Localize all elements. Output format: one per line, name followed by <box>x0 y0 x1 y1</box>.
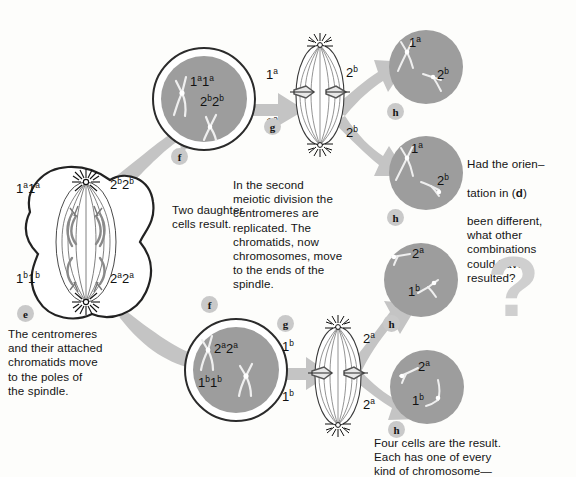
stage-badge-g-bottom: g <box>277 315 294 332</box>
cell-stage-f-top: 1a1a 2b2b <box>152 47 256 151</box>
g-bottom-label-top-right: 2a <box>363 330 375 346</box>
g-top-label-top-right: 2b <box>346 64 358 80</box>
caption-stage-e: The centromeres and their attached chrom… <box>8 327 168 398</box>
cell-stage-h-1: 1a 2b <box>389 30 463 104</box>
cell-stage-h-4: 2a 1b <box>390 350 464 424</box>
question-line-1: Had the orien– <box>467 157 544 170</box>
stage-badge-h-3: h <box>383 315 400 332</box>
g-top-label-top-left: 1a <box>266 66 278 82</box>
stage-badge-h-1: h <box>387 103 404 120</box>
stage-badge-h-2: h <box>387 209 404 226</box>
cell-stage-g-bottom: 1b 2a 1b 2a <box>298 312 378 440</box>
h2-label-top: 1a <box>411 140 423 156</box>
g-top-spindle <box>280 30 360 160</box>
cell-stage-h-3: 2a 1b <box>384 243 458 317</box>
stage-e-label-top-left: 1a1a <box>16 180 40 196</box>
cell-stage-h-2: 1a 2b <box>389 136 463 210</box>
stage-e-label-bottom-right: 2a2a <box>110 270 134 286</box>
h1-label-top: 1a <box>409 34 421 50</box>
cell-stage-f-bottom: 2a2a 1b1b <box>184 318 288 422</box>
g-top-label-bottom-right: 2b <box>346 124 358 140</box>
g-bottom-label-bottom-right: 2a <box>363 396 375 412</box>
g-bottom-label-bottom-left: 1b <box>282 388 294 404</box>
f-top-label-second: 2b2b <box>200 93 224 109</box>
caption-stage-h: Four cells are the result. Each has one … <box>374 436 576 477</box>
cell-stage-e: 1a1a 2b2b 1b1b 2a2a <box>10 158 162 328</box>
f-bottom-label-first: 2a2a <box>214 340 238 356</box>
f-bottom-label-second: 1b1b <box>198 374 222 390</box>
h1-chromosomes <box>389 30 463 104</box>
h2-chromosomes <box>389 136 463 210</box>
f-bottom-chromatids <box>184 318 288 422</box>
meiosis-diagram: 1a1a 2b2b 1b1b 2a2a e The centromeres an… <box>0 0 576 477</box>
h2-label-bottom: 2b <box>437 172 449 188</box>
stage-e-label-top-right: 2b2b <box>110 176 134 192</box>
caption-stage-g: In the second meiotic division the centr… <box>233 178 393 292</box>
question-line-2-pre: tation in ( <box>467 186 516 199</box>
f-top-label-first: 1a1a <box>190 73 214 89</box>
h4-label-bottom: 1b <box>412 392 424 408</box>
stage-badge-f-top: f <box>171 148 188 165</box>
stage-badge-e: e <box>17 305 34 322</box>
h3-label-top: 2a <box>412 245 424 261</box>
question-line-2-post: ) <box>523 186 527 199</box>
question-mark-graphic: ? <box>487 248 540 324</box>
stage-badge-g-top: g <box>264 118 281 135</box>
cell-stage-g-top: 1a 2b 1a 2b <box>280 30 360 160</box>
question-ref-d: d <box>516 186 523 199</box>
h4-label-top: 2a <box>418 358 430 374</box>
stage-e-label-bottom-left: 1b1b <box>16 270 40 286</box>
h3-label-bottom: 1b <box>408 283 420 299</box>
h1-label-bottom: 2b <box>437 66 449 82</box>
g-bottom-label-top-left: 1b <box>282 338 294 354</box>
stage-badge-f-bottom: f <box>201 296 218 313</box>
